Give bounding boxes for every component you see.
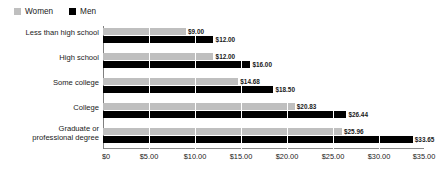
category-label-0-line-0: Less than high school [0, 28, 99, 37]
bar-group-graduate-or-professional-degree: $25.96 $33.65 [103, 128, 425, 144]
bar-value-women-1: $12.00 [216, 53, 236, 60]
bar-men-0[interactable] [103, 36, 213, 43]
chart-legend: Women Men [14, 5, 96, 17]
bar-women-3[interactable] [103, 103, 295, 110]
bar-group-less-than-high-school: $9.00 $12.00 [103, 28, 425, 44]
bar-men-3[interactable] [103, 111, 346, 118]
x-tick-label-4: $20.00 [276, 152, 299, 162]
bar-group-some-college: $14.68 $18.50 [103, 78, 425, 94]
legend-item-men[interactable]: Men [69, 7, 96, 16]
legend-item-women[interactable]: Women [14, 7, 53, 16]
category-label-3: College [0, 103, 99, 112]
bar-women-1[interactable] [103, 53, 213, 60]
category-label-1-line-0: High school [0, 53, 99, 62]
category-label-4-line-0: Graduate or [0, 124, 99, 133]
category-label-2: Some college [0, 78, 99, 87]
bar-value-men-4: $33.65 [415, 136, 435, 143]
x-tick-label-5: $25.00 [322, 152, 345, 162]
category-label-0: Less than high school [0, 28, 99, 37]
gridline-25 [333, 26, 334, 149]
x-tick-label-2: $10.00 [184, 152, 207, 162]
bar-women-4[interactable] [103, 128, 342, 135]
legend-label-men: Men [80, 7, 96, 16]
legend-swatch-women-icon [14, 8, 21, 15]
category-axis: Less than high school High school Some c… [0, 26, 99, 149]
bar-value-women-4: $25.96 [344, 128, 364, 135]
value-axis: $0 $5.00 $10.00 $15.00 $20.00 $25.00 $30… [103, 152, 425, 166]
bar-rows: $9.00 $12.00 $12.00 $16.00 $14.68 $18.50 [103, 26, 425, 149]
category-label-1: High school [0, 53, 99, 62]
x-tick-label-3: $15.00 [230, 152, 253, 162]
bar-value-men-0: $12.00 [216, 36, 236, 43]
bar-group-college: $20.83 $26.44 [103, 103, 425, 119]
bar-men-2[interactable] [103, 86, 273, 93]
bar-value-men-1: $16.00 [252, 61, 272, 68]
bar-value-women-0: $9.00 [188, 28, 204, 35]
bar-chart: Women Men Less than high school High sch… [0, 0, 445, 180]
bar-value-women-2: $14.68 [240, 78, 260, 85]
legend-swatch-men-icon [69, 8, 76, 15]
x-tick-label-0: $0 [102, 152, 110, 162]
bar-group-high-school: $12.00 $16.00 [103, 53, 425, 69]
gridline-5 [149, 26, 150, 149]
plot-area: $9.00 $12.00 $12.00 $16.00 $14.68 $18.50 [103, 26, 425, 149]
category-label-3-line-0: College [0, 103, 99, 112]
category-label-2-line-0: Some college [0, 78, 99, 87]
x-tick-label-7: $35.00 [413, 152, 436, 162]
category-label-4: Graduate or professional degree [0, 124, 99, 142]
x-tick-label-6: $30.00 [368, 152, 391, 162]
gridline-35 [424, 26, 425, 149]
legend-label-women: Women [25, 7, 53, 16]
bar-value-men-3: $26.44 [348, 111, 368, 118]
gridline-30 [379, 26, 380, 149]
bar-women-2[interactable] [103, 78, 238, 85]
gridline-10 [195, 26, 196, 149]
bar-value-men-2: $18.50 [275, 86, 295, 93]
bar-women-0[interactable] [103, 28, 186, 35]
x-tick-label-1: $5.00 [140, 152, 159, 162]
gridline-15 [241, 26, 242, 149]
x-axis-line [103, 148, 425, 149]
bar-men-1[interactable] [103, 61, 250, 68]
category-label-4-line-1: professional degree [0, 133, 99, 142]
bar-value-women-3: $20.83 [297, 103, 317, 110]
